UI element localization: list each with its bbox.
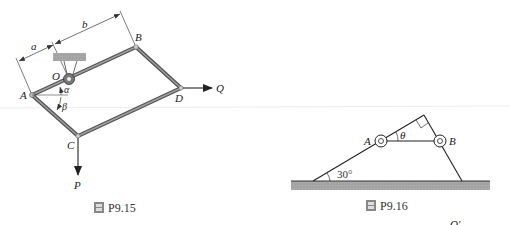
caption-number: P9.15 xyxy=(108,201,136,215)
partial-label: O' xyxy=(450,218,461,225)
pin-o-hole xyxy=(67,77,71,81)
joint-d xyxy=(179,86,183,90)
right-angle-marker xyxy=(416,120,428,128)
caption-p9-16: P9.16 xyxy=(366,199,408,213)
extension-line-b xyxy=(120,11,136,47)
page-rule xyxy=(0,106,510,108)
link-left xyxy=(313,115,424,181)
point-b-label: B xyxy=(135,31,142,43)
point-b-label: B xyxy=(449,135,456,147)
dimension-b-label: b xyxy=(82,18,88,30)
angle-beta-label: β xyxy=(61,101,67,112)
figure-p9-15: a b α β A O B D C Q P xyxy=(16,11,224,215)
figure-p9-16: θ 30° A B P9.16 O' xyxy=(291,115,490,225)
caption-number: P9.16 xyxy=(380,199,408,213)
angle-theta-label: θ xyxy=(400,129,406,141)
angle-30-label: 30° xyxy=(337,168,352,180)
figure-icon xyxy=(366,200,376,211)
point-c-label: C xyxy=(67,139,75,151)
diagram-canvas: a b α β A O B D C Q P xyxy=(0,0,510,225)
collar-a xyxy=(375,135,387,147)
force-q-label: Q xyxy=(216,82,224,94)
point-d-label: D xyxy=(174,92,183,104)
point-a-label: A xyxy=(19,89,27,101)
link-right xyxy=(424,115,462,181)
force-p-label: P xyxy=(73,179,81,191)
point-o-label: O xyxy=(52,70,60,82)
support-strut-right xyxy=(73,61,77,74)
figure-icon xyxy=(94,202,104,213)
joint-b xyxy=(134,45,138,49)
collar-b xyxy=(434,135,446,147)
angle-alpha-arc xyxy=(60,87,61,95)
angle-alpha-label: α xyxy=(64,84,70,95)
dimension-b xyxy=(55,14,120,44)
caption-p9-15: P9.15 xyxy=(94,201,136,215)
angle-30-arc xyxy=(327,173,330,181)
ground xyxy=(291,181,490,190)
angle-theta-arc xyxy=(396,132,398,141)
fixed-support xyxy=(53,53,86,61)
dimension-a-label: a xyxy=(31,40,37,52)
point-a-label: A xyxy=(363,135,371,147)
joint-c xyxy=(76,134,80,138)
